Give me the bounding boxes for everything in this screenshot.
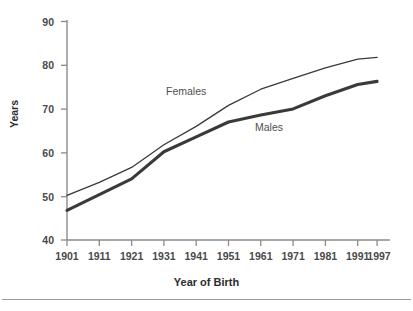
x-axis-title: Year of Birth (0, 276, 413, 288)
x-tick-label-1901: 1901 (55, 250, 78, 262)
x-tick-label-1991: 1991 (346, 250, 369, 262)
y-tick-label-70: 70 (18, 103, 54, 115)
x-tick-label-1971: 1971 (281, 250, 304, 262)
x-tick-label-1997: 1997 (367, 250, 390, 262)
y-axis-title: Years (8, 100, 20, 128)
chart-plot-area (0, 0, 413, 311)
x-tick-label-1951: 1951 (217, 250, 240, 262)
x-tick-label-1931: 1931 (152, 250, 175, 262)
y-tick-label-50: 50 (18, 191, 54, 203)
bottom-divider (2, 299, 411, 300)
y-tick-label-80: 80 (18, 59, 54, 71)
series-label-females: Females (166, 85, 206, 97)
series-line-males (67, 81, 377, 210)
x-tick-label-1961: 1961 (249, 250, 272, 262)
y-axis-ticks (61, 22, 67, 241)
x-tick-label-1911: 1911 (88, 250, 111, 262)
y-tick-label-90: 90 (18, 16, 54, 28)
y-tick-label-60: 60 (18, 147, 54, 159)
line-chart: 90 80 70 60 50 40 1901 1911 1921 1931 19… (0, 0, 413, 311)
x-tick-label-1941: 1941 (185, 250, 208, 262)
x-tick-label-1921: 1921 (120, 250, 143, 262)
x-tick-label-1981: 1981 (314, 250, 337, 262)
series-label-males: Males (255, 121, 283, 133)
y-tick-label-40: 40 (18, 234, 54, 246)
x-axis-ticks (67, 240, 377, 246)
